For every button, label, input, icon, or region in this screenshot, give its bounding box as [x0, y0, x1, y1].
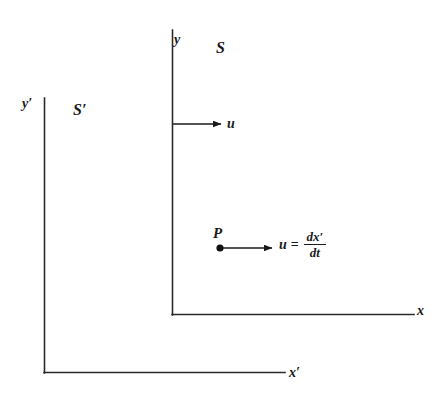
physics-diagram: y S y′ S′ u P x x′ u = dx′ dt — [0, 0, 441, 398]
axis-label-x: x — [417, 304, 424, 318]
derivative-fraction: dx′ dt — [304, 230, 326, 259]
point-label-P: P — [213, 226, 222, 241]
frame-Sprime-axes — [44, 98, 285, 373]
axis-label-y: y — [174, 33, 180, 47]
frame-label-S-prime: S′ — [73, 102, 86, 118]
frame-S-axes — [172, 30, 414, 315]
diagram-canvas — [0, 0, 441, 398]
axis-label-y-prime: y′ — [22, 97, 32, 111]
particle-velocity-equation: u = dx′ dt — [279, 230, 326, 259]
axis-label-x-prime: x′ — [289, 366, 300, 380]
fraction-denominator: dt — [308, 245, 322, 259]
equation-operator: = — [291, 238, 299, 252]
frame-label-S: S — [216, 40, 225, 56]
equation-lhs: u — [279, 238, 287, 252]
fraction-numerator: dx′ — [304, 230, 325, 244]
frame-velocity-label: u — [227, 117, 235, 131]
